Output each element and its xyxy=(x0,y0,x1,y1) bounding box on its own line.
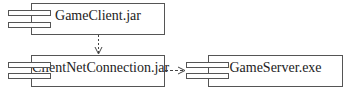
dependency-arrow-net-to-server xyxy=(165,67,185,74)
dependency-arrow-client-to-net xyxy=(95,35,102,54)
dependency-arrows xyxy=(0,0,345,92)
